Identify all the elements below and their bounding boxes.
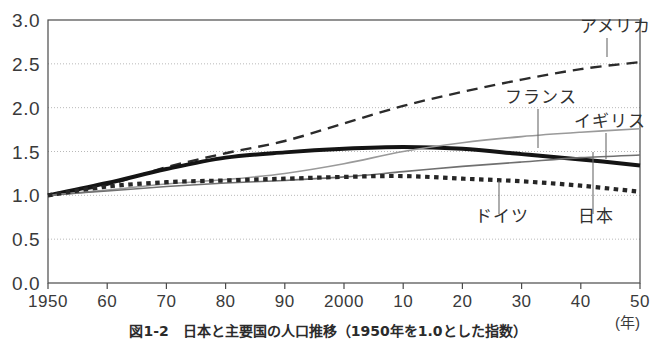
x-tick-label-90: 90 [275, 292, 295, 311]
x-tick-label-30: 30 [512, 292, 532, 311]
x-tick-label-2000: 2000 [324, 292, 364, 311]
series-label-日本: 日本 [578, 206, 614, 226]
x-axis-unit-label: (年) [615, 314, 640, 331]
figure-caption: 図1-2 日本と主要国の人口推移（1950年を1.0とした指数） [129, 323, 526, 339]
x-tick-label-20: 20 [452, 292, 472, 311]
x-tick-label-70: 70 [156, 292, 176, 311]
figure-caption-text: 図1-2 日本と主要国の人口推移（1950年を1.0とした指数） [129, 323, 526, 339]
population-index-line-chart: 0.00.51.01.52.02.53.0 195060708090200010… [0, 0, 657, 339]
x-tick-label-50: 50 [630, 292, 650, 311]
x-tick-label-1950: 1950 [28, 292, 68, 311]
series-label-フランス: フランス [505, 87, 577, 107]
x-axis-unit-label: (年) [615, 314, 640, 331]
series-label-ドイツ: ドイツ [475, 206, 529, 226]
y-tick-label-1-5: 1.5 [12, 142, 40, 163]
series-label-アメリカ: アメリカ [580, 16, 651, 36]
chart-background [0, 0, 657, 339]
figure-root: 0.00.51.01.52.02.53.0 195060708090200010… [0, 0, 657, 339]
y-tick-label-2-0: 2.0 [12, 98, 40, 119]
y-tick-label-3-0: 3.0 [12, 10, 40, 31]
series-label-イギリス: イギリス [574, 111, 646, 131]
x-tick-label-80: 80 [216, 292, 236, 311]
y-tick-label-1-0: 1.0 [12, 185, 40, 206]
x-tick-label-40: 40 [571, 292, 591, 311]
x-tick-label-10: 10 [393, 292, 413, 311]
y-tick-label-0-5: 0.5 [12, 229, 40, 250]
y-tick-label-0-0: 0.0 [12, 273, 40, 294]
x-tick-label-60: 60 [97, 292, 117, 311]
y-tick-label-2-5: 2.5 [12, 54, 40, 75]
